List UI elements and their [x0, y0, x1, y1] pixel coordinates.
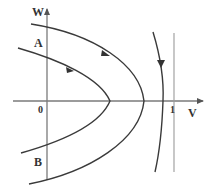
right-trajectory-arrow-icon [157, 60, 165, 68]
v-axis-label: V [188, 106, 197, 120]
point-a-label: A [34, 36, 43, 50]
w-axis-label: W [32, 5, 44, 19]
outer-trajectory-arrow-icon [101, 50, 110, 56]
phase-portrait-diagram: W V 0 1 A B [0, 0, 212, 195]
point-b-label: B [34, 155, 42, 169]
outer-trajectory-curve [29, 24, 144, 184]
right-trajectory-curve [153, 32, 163, 172]
origin-label: 0 [38, 104, 43, 115]
v-tick-one-label: 1 [170, 104, 175, 115]
